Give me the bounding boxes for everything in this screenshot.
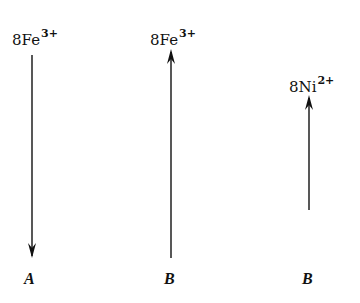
arrow-down-a (28, 55, 36, 258)
charge-1: 3+ (41, 27, 58, 40)
footer-label-a: A (24, 271, 35, 287)
footer-label-b1: B (164, 271, 175, 287)
charge-2: 3+ (179, 27, 196, 40)
species-3: 8Ni (289, 78, 316, 96)
species-label-2: 8Fe3+ (150, 30, 196, 48)
footer-label-b2: B (302, 271, 313, 287)
species-2: 8Fe (150, 31, 178, 49)
species-label-3: 8Ni2+ (289, 77, 334, 95)
arrow-up-b2 (305, 95, 313, 210)
charge-3: 2+ (317, 74, 334, 87)
species-label-1: 8Fe3+ (12, 30, 58, 48)
arrow-up-b1 (167, 49, 175, 258)
species-1: 8Fe (12, 31, 40, 49)
